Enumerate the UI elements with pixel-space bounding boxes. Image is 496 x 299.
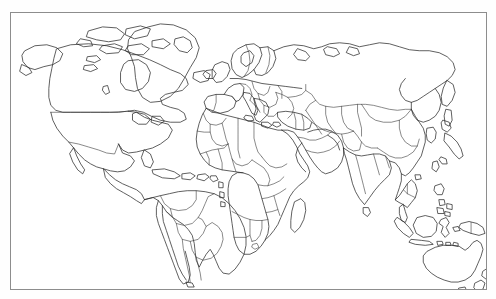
region-europe — [203, 44, 306, 128]
region-iceland — [193, 71, 210, 83]
region-madagascar — [291, 199, 306, 233]
region-australia — [423, 240, 483, 289]
world-map-svg — [11, 13, 486, 289]
watermark-text — [6, 289, 64, 298]
region-new-guinea — [459, 221, 485, 235]
region-south-asia — [344, 148, 402, 217]
region-greenland — [128, 24, 200, 102]
region-south-america — [144, 191, 246, 287]
map-image — [0, 0, 496, 299]
region-japan — [439, 120, 463, 164]
map-frame — [10, 12, 487, 290]
region-russia-siberia — [274, 43, 455, 126]
region-north-america — [20, 44, 188, 204]
region-east-asia — [362, 104, 440, 179]
region-africa — [196, 108, 310, 254]
region-middle-east — [278, 110, 344, 174]
region-central-asia — [312, 104, 378, 151]
region-philippines — [434, 184, 452, 217]
region-new-zealand — [474, 267, 486, 289]
